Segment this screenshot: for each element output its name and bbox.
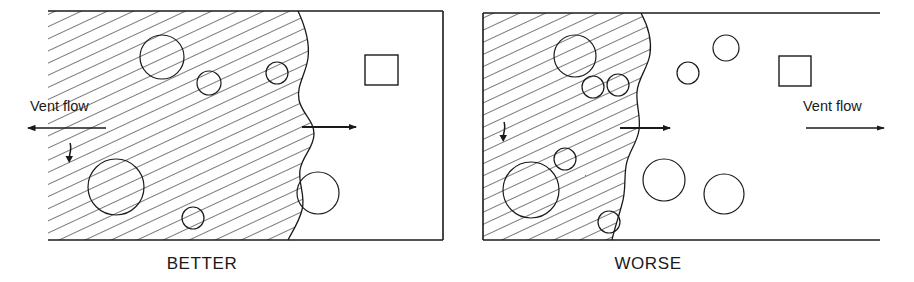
vent-flow-label-worse: Vent flow <box>803 98 862 114</box>
vent-flow-label-better: Vent flow <box>30 98 89 114</box>
panel-caption-better: BETTER <box>167 254 238 273</box>
void-circle <box>677 62 699 84</box>
square-marker <box>365 55 398 85</box>
void-circle <box>643 159 685 201</box>
void-circle <box>704 174 744 214</box>
figure-root: Vent flow BETTER <box>0 0 914 282</box>
panel-better: Vent flow BETTER <box>28 5 443 273</box>
panel-caption-worse: WORSE <box>614 254 681 273</box>
panel-worse: Vent flow WORSE <box>476 7 884 273</box>
void-circle <box>713 35 739 61</box>
void-circle <box>297 172 339 214</box>
comparison-diagram: Vent flow BETTER <box>0 0 914 282</box>
void-group-worse-outside <box>643 35 744 214</box>
square-marker <box>779 56 811 86</box>
